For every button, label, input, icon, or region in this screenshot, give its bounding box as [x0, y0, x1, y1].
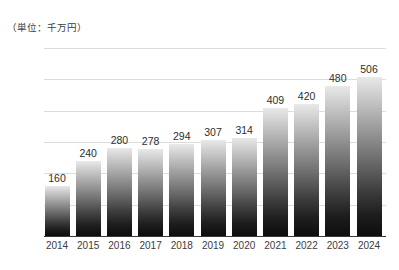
- bar-value-label: 294: [173, 130, 191, 142]
- table-row: [169, 144, 194, 236]
- bar-value-label: 240: [79, 147, 97, 159]
- table-row: [107, 148, 132, 236]
- bar-value-label: 160: [48, 172, 66, 184]
- table-row: [76, 161, 101, 236]
- bar-value-label: 420: [298, 90, 316, 102]
- table-row: [325, 86, 350, 236]
- bar-value-label: 506: [360, 63, 378, 75]
- bar-value-label: 280: [111, 134, 129, 146]
- table-row: [201, 140, 226, 236]
- table-row: [45, 186, 70, 236]
- bar-value-label: 314: [235, 124, 253, 136]
- table-row: [357, 77, 382, 236]
- plot-area: 160 240 280 278 294 307 314 409: [44, 48, 386, 236]
- bar-value-label: 409: [267, 94, 285, 106]
- x-tick-label: 2024: [349, 240, 389, 251]
- table-row: [294, 104, 319, 236]
- bar-chart: （単位：千万円） 0 100 200 300 400 500 600 160 2…: [0, 0, 399, 270]
- table-row: [232, 138, 257, 236]
- table-row: [138, 149, 163, 236]
- gridline: [44, 48, 386, 49]
- bar-value-label: 307: [204, 126, 222, 138]
- bar-value-label: 480: [329, 72, 347, 84]
- bar-value-label: 278: [142, 135, 160, 147]
- unit-note-label: （単位：千万円）: [7, 20, 87, 34]
- table-row: [263, 108, 288, 236]
